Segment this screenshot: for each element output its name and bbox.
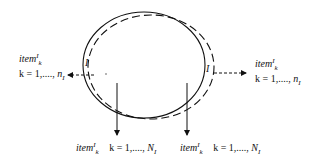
inner-label-left: I (85, 57, 88, 69)
left-range-sub: I (62, 74, 64, 82)
bottom-right-range-sub: I (258, 148, 260, 156)
right-range-prefix: k = 1,...., (255, 73, 293, 84)
left-item-base: item (19, 53, 36, 64)
bottom-right-label: itemIk k = 1,...., NI (180, 142, 260, 154)
bottom-left-item-sub: k (96, 148, 99, 156)
dashed-ellipse (88, 15, 214, 119)
left-item-sub: k (39, 59, 42, 67)
right-item-base: item (255, 58, 272, 69)
center-dot (105, 73, 106, 74)
left-range-label: k = 1,...., nI (19, 68, 64, 80)
bottom-right-item-sub: k (200, 148, 203, 156)
right-item-sub: k (275, 64, 278, 72)
bottom-left-range-sub: I (154, 148, 156, 156)
left-item-label: itemIk (19, 53, 42, 65)
bottom-left-item-base: item (76, 142, 93, 153)
left-range-prefix: k = 1,...., (19, 68, 57, 79)
bottom-left-range-var: N (147, 142, 154, 153)
bottom-left-label: itemIk k = 1,...., NI (76, 142, 156, 154)
right-range-sub: I (298, 79, 300, 87)
bottom-right-range-prefix: k = 1,...., (213, 142, 251, 153)
bottom-right-range-var: N (251, 142, 258, 153)
inner-label-right: I (206, 63, 209, 75)
bottom-left-range-prefix: k = 1,...., (109, 142, 147, 153)
bottom-right-item-base: item (180, 142, 197, 153)
right-range-label: k = 1,...., nI (255, 73, 300, 85)
right-item-label: itemIk (255, 58, 278, 70)
